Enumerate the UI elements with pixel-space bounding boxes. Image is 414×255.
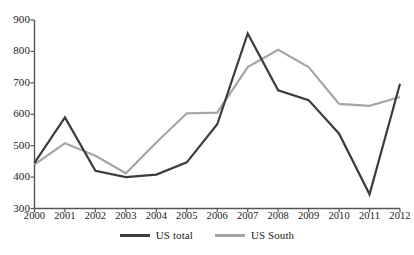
legend-label: US total bbox=[156, 230, 193, 241]
y-axis-tick-label: 600 bbox=[0, 108, 30, 119]
legend-item[interactable]: US South bbox=[215, 230, 294, 241]
y-axis-tick-label: 500 bbox=[0, 140, 30, 151]
chart-legend: US totalUS South bbox=[0, 230, 414, 241]
series-line-us-total bbox=[35, 34, 401, 195]
plot-area: 300400500600700800900 200020012002200320… bbox=[0, 0, 414, 255]
line-swatch-dark bbox=[120, 234, 150, 237]
y-axis-tick-label: 900 bbox=[0, 14, 30, 25]
line-swatch-light bbox=[215, 234, 245, 237]
y-axis-tick-label: 700 bbox=[0, 77, 30, 88]
series-group bbox=[35, 34, 401, 195]
line-chart: 300400500600700800900 200020012002200320… bbox=[0, 0, 414, 255]
axis-group bbox=[31, 20, 401, 213]
legend-item[interactable]: US total bbox=[120, 230, 193, 241]
legend-label: US South bbox=[251, 230, 294, 241]
x-axis-tick-label: 2012 bbox=[380, 210, 414, 222]
y-axis-tick-label: 400 bbox=[0, 171, 30, 182]
y-axis-tick-label: 800 bbox=[0, 45, 30, 56]
series-line-us-south bbox=[35, 50, 401, 173]
